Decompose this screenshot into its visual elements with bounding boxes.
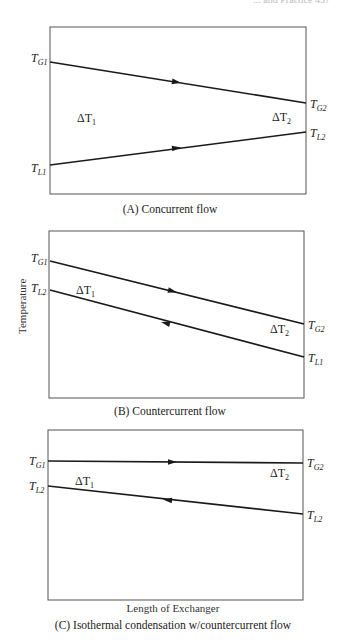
label-tg2: TG2 [310,97,326,113]
heat-exchanger-diagram: ... and Practice 457 TG1 TG2 TL1 TL2 ΔT1… [0,0,339,642]
panel-c-frame [48,430,303,600]
panel-b-gas-arrow-icon [167,287,177,295]
label-tl2: TL2 [310,126,325,142]
label-tl2-right: TL2 [307,508,322,524]
label-tg1: TG1 [31,51,47,67]
panel-a: TG1 TG2 TL1 TL2 ΔT1 ΔT2 (A) Concurrent f… [31,27,326,216]
delta-t1-label: ΔT1 [76,283,95,299]
label-tg1: TG1 [31,251,47,267]
y-axis-label: Temperature [16,278,28,334]
panel-b-liquid-line [50,290,304,357]
label-tg2: TG2 [308,318,324,334]
panel-c-liquid-line [48,486,303,514]
delta-t1-label: ΔT1 [75,474,94,490]
panel-b: TG1 TG2 TL2 TL1 ΔT1 ΔT2 Temperature (B) … [16,231,324,418]
panel-b-caption: (B) Countercurrent flow [114,405,226,418]
panel-c: TG1 TG2 TL2 TL2 ΔT1 ΔT2 Length of Exchan… [29,430,323,632]
delta-t1-label: ΔT1 [77,111,96,127]
panel-a-caption: (A) Concurrent flow [123,203,218,216]
delta-t2-label: ΔT2 [272,110,291,126]
label-tl1: TL1 [31,161,46,177]
delta-t2-label: ΔT2 [270,466,289,482]
panel-c-liquid-arrow-icon [163,497,173,504]
panel-c-caption: (C) Isothermal condensation w/countercur… [55,619,292,632]
label-tl2: TL2 [31,281,46,297]
label-tg1: TG1 [29,454,45,470]
page-header-fragment: ... and Practice 457 [253,0,330,5]
x-axis-label: Length of Exchanger [127,602,220,614]
label-tg2: TG2 [307,456,323,472]
label-tl2-left: TL2 [29,479,44,495]
delta-t2-label: ΔT2 [270,322,289,338]
label-tl1: TL1 [308,351,323,367]
panel-c-gas-arrow-icon [168,459,177,465]
